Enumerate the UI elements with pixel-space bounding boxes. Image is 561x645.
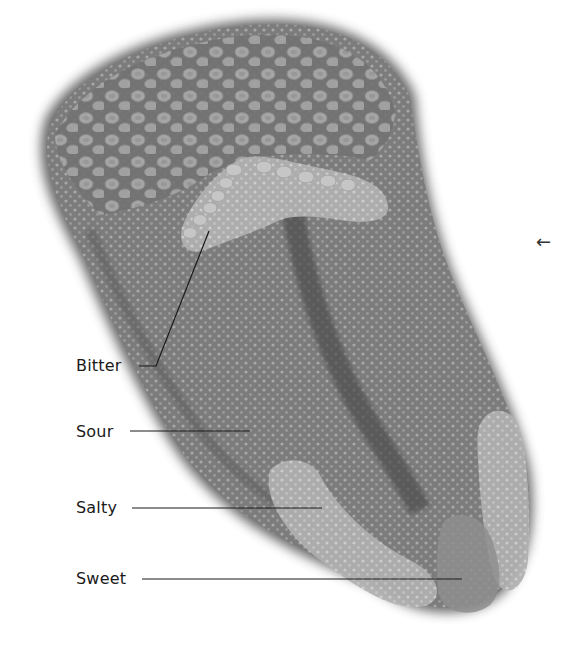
label-sour: Sour [76,424,113,440]
tongue-illustration [0,0,561,645]
label-bitter: Bitter [76,358,122,374]
left-arrow-icon: ← [536,233,551,251]
tongue-diagram: Bitter Sour Salty Sweet ← [0,0,561,645]
label-sweet: Sweet [76,571,126,587]
label-salty: Salty [76,500,117,516]
